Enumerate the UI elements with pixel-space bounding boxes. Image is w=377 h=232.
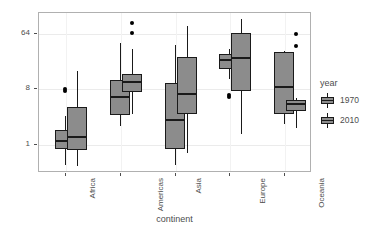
y-axis-title: Income in dollars per day bbox=[0, 0, 10, 18]
whisker-lower bbox=[132, 92, 133, 114]
median-line bbox=[67, 136, 87, 138]
boxplot-box bbox=[67, 107, 87, 151]
x-tick-mark bbox=[284, 173, 285, 176]
whisker-upper bbox=[175, 45, 176, 83]
outlier-point bbox=[294, 44, 298, 48]
x-tick-label-americas: Americas bbox=[157, 178, 165, 211]
median-line bbox=[231, 57, 251, 59]
whisker-upper bbox=[187, 26, 188, 57]
whisker-lower bbox=[284, 114, 285, 124]
boxplot-box bbox=[231, 33, 251, 90]
legend-item-1970[interactable]: 1970 bbox=[320, 92, 377, 108]
y-tick-mark bbox=[34, 33, 37, 34]
whisker-upper bbox=[241, 19, 242, 33]
x-tick-label-asia: Asia bbox=[194, 178, 202, 194]
median-line bbox=[274, 86, 294, 88]
outlier-point bbox=[227, 93, 231, 97]
legend-key-boxplot-icon bbox=[320, 113, 335, 128]
outlier-point bbox=[294, 32, 298, 36]
x-tick-mark bbox=[65, 173, 66, 176]
whisker-lower bbox=[120, 115, 121, 127]
plot-panel bbox=[38, 12, 311, 172]
legend-item-2010[interactable]: 2010 bbox=[320, 112, 377, 128]
outlier-point bbox=[130, 21, 134, 25]
y-tick-label: 8 bbox=[2, 84, 30, 92]
x-tick-label-africa: Africa bbox=[90, 178, 98, 198]
whisker-upper bbox=[120, 43, 121, 79]
x-tick-mark bbox=[229, 173, 230, 176]
whisker-lower bbox=[77, 150, 78, 166]
median-line bbox=[165, 119, 185, 121]
median-line bbox=[286, 103, 306, 105]
boxplot-box bbox=[286, 100, 306, 111]
whisker-lower bbox=[229, 69, 230, 78]
x-axis-title: continent bbox=[38, 214, 311, 224]
x-tick-label-europe: Europe bbox=[259, 178, 267, 204]
whisker-lower bbox=[187, 114, 188, 153]
chart-root: Income in dollars per day 1864 AfricaAme… bbox=[0, 0, 377, 232]
y-tick-mark bbox=[34, 144, 37, 145]
whisker-upper bbox=[77, 71, 78, 107]
legend: year 19702010 bbox=[320, 78, 377, 132]
y-tick-label: 1 bbox=[2, 140, 30, 148]
outlier-point bbox=[130, 31, 134, 35]
legend-label: 2010 bbox=[340, 115, 359, 125]
whisker-lower bbox=[241, 91, 242, 134]
y-tick-mark bbox=[34, 88, 37, 89]
median-line bbox=[177, 93, 197, 95]
median-line bbox=[110, 96, 130, 98]
boxplot-box bbox=[177, 57, 197, 114]
whisker-lower bbox=[65, 149, 66, 164]
legend-label: 1970 bbox=[340, 95, 359, 105]
legend-title: year bbox=[320, 78, 377, 88]
x-tick-label-oceania: Oceania bbox=[317, 178, 325, 208]
x-tick-mark bbox=[175, 173, 176, 176]
gridline-horizontal bbox=[39, 34, 310, 35]
legend-key-boxplot-icon bbox=[320, 93, 335, 108]
x-tick-mark bbox=[120, 173, 121, 176]
median-line bbox=[122, 81, 142, 83]
whisker-lower bbox=[175, 149, 176, 164]
whisker-lower bbox=[296, 111, 297, 128]
whisker-upper bbox=[65, 116, 66, 130]
y-tick-label: 64 bbox=[2, 29, 30, 37]
whisker-upper bbox=[132, 49, 133, 73]
